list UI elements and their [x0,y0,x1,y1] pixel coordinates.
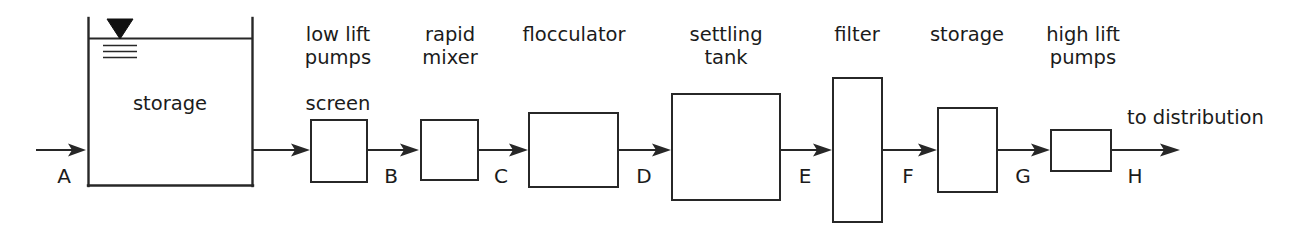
filter-to-storage-arrow [882,144,937,157]
stream-label-h: H [1127,164,1142,188]
rapid-mixer-box [421,120,478,180]
flocculator-to-settling-arrow [618,144,671,157]
flow-diagram-canvas: A storage low lift pumps screen [0,0,1294,233]
screen-to-mixer-arrow [367,144,419,157]
storage-to-highlift-arrow [997,144,1050,157]
tank-to-screen-arrow [253,144,310,157]
filter-box [833,78,882,222]
stream-h-arrow [1111,144,1180,157]
clear-well-storage-box [938,108,997,192]
mixer-to-flocculator-arrow [478,144,528,157]
high-lift-pumps-label-line2: pumps [1050,46,1116,69]
water-level-triangle-icon [107,19,133,39]
storage-tank-label: storage [133,92,207,115]
settling-to-filter-arrow [780,144,832,157]
rapid-mixer-label-line1: rapid [425,23,475,46]
screen-label: screen [306,92,371,115]
stream-label-a: A [57,164,71,188]
settling-tank-label-line1: settling [689,23,762,46]
settling-tank-label-line2: tank [704,46,748,69]
flocculator-label: flocculator [523,23,627,46]
process-flow-diagram: A storage low lift pumps screen [0,0,1294,233]
screen-box [311,120,367,182]
stream-label-c: C [494,164,508,188]
filter-label: filter [834,23,880,46]
stream-label-d: D [636,164,651,188]
high-lift-pumps-label-line1: high lift [1046,23,1120,46]
stream-label-f: F [902,164,914,188]
rapid-mixer-label-line2: mixer [422,46,478,69]
stream-label-e: E [799,164,812,188]
high-lift-pumps-box [1051,130,1111,171]
clear-well-storage-label: storage [930,23,1004,46]
stream-a-arrow [36,144,86,157]
low-lift-pumps-label-line1: low lift [306,23,371,46]
settling-tank-box [672,94,780,200]
low-lift-pumps-label-line2: pumps [305,46,371,69]
stream-label-b: B [384,164,398,188]
to-distribution-label: to distribution [1127,106,1264,129]
stream-label-g: G [1015,164,1031,188]
flocculator-box [529,113,618,187]
